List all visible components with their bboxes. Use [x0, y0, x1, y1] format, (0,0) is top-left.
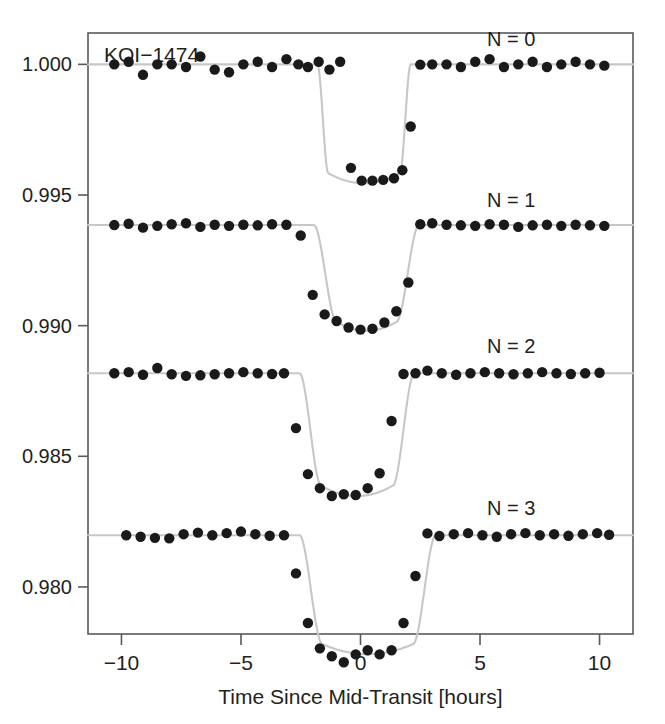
data-point — [209, 369, 219, 379]
series-label: N = 2 — [487, 335, 535, 357]
data-point — [279, 530, 289, 540]
data-point — [556, 59, 566, 69]
data-point — [357, 175, 367, 185]
data-point — [537, 367, 547, 377]
data-point — [492, 532, 502, 542]
data-point — [465, 368, 475, 378]
data-point — [367, 324, 377, 334]
data-point — [193, 527, 203, 537]
data-point — [585, 220, 595, 230]
data-point — [152, 59, 162, 69]
data-point — [513, 59, 523, 69]
data-point — [527, 220, 537, 230]
data-point — [238, 220, 248, 230]
data-point — [362, 645, 372, 655]
data-point — [291, 568, 301, 578]
data-point — [327, 491, 337, 501]
data-point — [238, 367, 248, 377]
y-tick-label: 0.980 — [22, 576, 72, 598]
data-point — [195, 370, 205, 380]
data-point — [535, 530, 545, 540]
data-point — [374, 468, 384, 478]
data-point — [463, 528, 473, 538]
data-point — [109, 59, 119, 69]
data-point — [549, 529, 559, 539]
transit-model-curve — [88, 64, 633, 183]
data-point — [181, 218, 191, 228]
data-point — [542, 62, 552, 72]
data-point — [291, 423, 301, 433]
data-point — [267, 369, 277, 379]
data-point — [520, 528, 530, 538]
data-point — [152, 363, 162, 373]
x-axis-title: Time Since Mid-Transit [hours] — [218, 685, 502, 708]
data-point — [315, 643, 325, 653]
data-point — [138, 70, 148, 80]
data-point — [494, 368, 504, 378]
data-point — [508, 369, 518, 379]
data-point — [592, 528, 602, 538]
data-point — [542, 220, 552, 230]
data-point — [303, 618, 313, 628]
data-point — [238, 59, 248, 69]
data-point — [351, 490, 361, 500]
data-point — [551, 368, 561, 378]
data-point — [331, 316, 341, 326]
data-point — [484, 54, 494, 64]
data-point — [166, 219, 176, 229]
data-point — [398, 618, 408, 628]
data-point — [386, 645, 396, 655]
data-point — [484, 219, 494, 229]
data-point — [437, 368, 447, 378]
data-point — [346, 163, 356, 173]
data-point — [451, 370, 461, 380]
data-point — [599, 221, 609, 231]
data-point — [513, 222, 523, 232]
data-point — [281, 54, 291, 64]
lightcurve-plot: 1.0000.9950.9900.9850.980−10−50510Time S… — [0, 0, 665, 724]
transit-model-curve — [88, 373, 633, 496]
data-point — [441, 59, 451, 69]
data-point — [470, 57, 480, 67]
data-point — [604, 530, 614, 540]
data-point — [578, 529, 588, 539]
data-point — [378, 175, 388, 185]
data-point — [267, 219, 277, 229]
data-point — [367, 175, 377, 185]
data-point — [449, 529, 459, 539]
data-point — [523, 368, 533, 378]
data-point — [379, 317, 389, 327]
data-point — [403, 277, 413, 287]
data-point — [456, 220, 466, 230]
data-point — [406, 121, 416, 131]
y-tick-label: 0.985 — [22, 445, 72, 467]
data-point — [303, 62, 313, 72]
data-point — [253, 57, 263, 67]
data-point — [566, 369, 576, 379]
data-point — [477, 530, 487, 540]
data-point — [195, 51, 205, 61]
data-point — [527, 57, 537, 67]
data-point — [570, 57, 580, 67]
data-point — [313, 57, 323, 67]
data-point — [279, 368, 289, 378]
data-point — [303, 469, 313, 479]
data-point — [123, 219, 133, 229]
data-point — [427, 218, 437, 228]
data-point — [480, 367, 490, 377]
data-point — [339, 489, 349, 499]
data-point — [250, 529, 260, 539]
data-point — [224, 221, 234, 231]
data-point — [207, 530, 217, 540]
data-point — [594, 368, 604, 378]
data-point — [166, 59, 176, 69]
data-point — [470, 221, 480, 231]
data-point — [138, 370, 148, 380]
data-point — [410, 571, 420, 581]
data-point — [123, 57, 133, 67]
data-point — [236, 526, 246, 536]
data-point — [499, 220, 509, 230]
series-group: N = 1 — [88, 189, 633, 335]
data-point — [281, 220, 291, 230]
data-point — [181, 371, 191, 381]
